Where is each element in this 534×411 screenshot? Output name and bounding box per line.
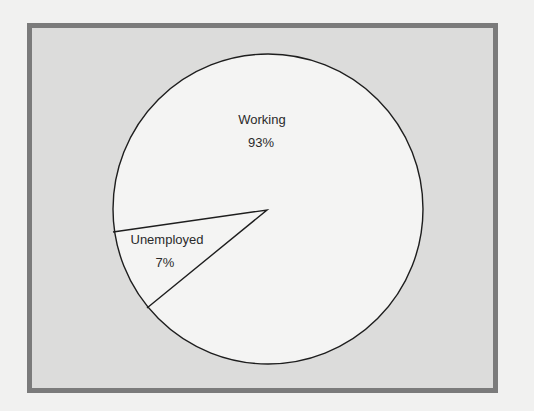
slice-label-working: Working [238,112,285,127]
slice-label-unemployed: Unemployed [131,232,204,247]
pie-chart [0,0,534,411]
pie-slice-working [113,54,423,364]
slice-value-working: 93% [248,135,274,150]
slice-value-unemployed: 7% [156,255,175,270]
